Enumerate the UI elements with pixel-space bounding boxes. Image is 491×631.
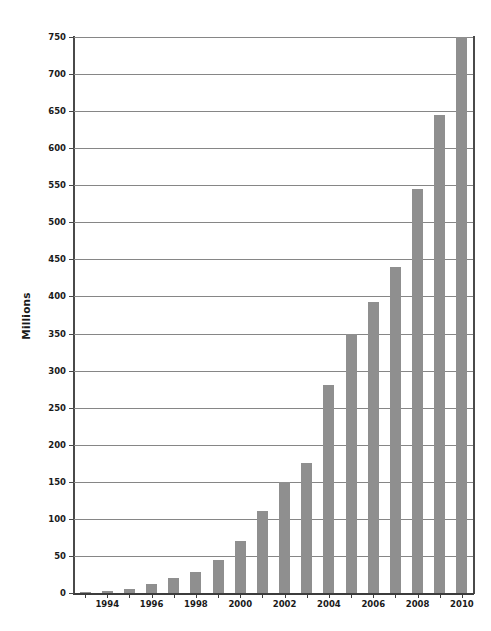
x-axis-tick-mark [307, 593, 308, 598]
gridline [74, 148, 473, 149]
x-axis-tick-mark [240, 593, 241, 598]
x-axis-tick-label: 2008 [406, 600, 430, 609]
bar [323, 385, 334, 593]
y-axis-tick-label: 450 [48, 255, 66, 264]
bar [213, 560, 224, 593]
y-axis-tick-mark [69, 408, 74, 409]
y-axis-tick-mark [69, 482, 74, 483]
x-axis-tick-mark [285, 593, 286, 598]
x-axis-tick-mark [418, 593, 419, 598]
y-axis-tick-label: 600 [48, 144, 66, 153]
bar [235, 541, 246, 593]
bar [368, 302, 379, 593]
y-axis-tick-mark [69, 148, 74, 149]
x-axis-tick-label: 2006 [361, 600, 385, 609]
x-axis-tick-mark [174, 593, 175, 598]
x-axis-tick-label: 2000 [228, 600, 252, 609]
y-axis-tick-label: 200 [48, 440, 66, 449]
y-axis-line [73, 36, 75, 593]
y-axis-tick-mark [69, 37, 74, 38]
y-axis-tick-label: 650 [48, 107, 66, 116]
x-axis-tick-mark [395, 593, 396, 598]
y-axis-tick-label: 400 [48, 292, 66, 301]
bar [346, 334, 357, 593]
bar [257, 511, 268, 593]
y-axis-tick-mark [69, 445, 74, 446]
x-axis-tick-label: 2002 [273, 600, 297, 609]
bar [190, 572, 201, 593]
y-axis-tick-mark [69, 556, 74, 557]
y-axis-tick-mark [69, 74, 74, 75]
x-axis-tick-mark [107, 593, 108, 598]
x-axis-tick-mark [262, 593, 263, 598]
y-axis-tick-mark [69, 371, 74, 372]
y-axis-tick-label: 0 [60, 589, 66, 598]
bar [412, 189, 423, 593]
x-axis-tick-label: 2004 [317, 600, 341, 609]
y-axis-tick-label: 350 [48, 329, 66, 338]
gridline [74, 111, 473, 112]
y-axis-tick-mark [69, 334, 74, 335]
y-axis-tick-label: 550 [48, 181, 66, 190]
y-axis-tick-label: 750 [48, 33, 66, 42]
right-axis-spine [473, 36, 475, 594]
y-axis-tick-label: 150 [48, 478, 66, 487]
gridline [74, 74, 473, 75]
bar [390, 267, 401, 593]
bar [168, 578, 179, 593]
x-axis-tick-mark [373, 593, 374, 598]
bar [146, 584, 157, 593]
bar [434, 115, 445, 593]
x-axis-tick-label: 1996 [140, 600, 164, 609]
x-axis-tick-label: 1994 [95, 600, 119, 609]
x-axis-tick-mark [440, 593, 441, 598]
y-axis-tick-mark [69, 222, 74, 223]
y-axis-tick-label: 50 [54, 552, 66, 561]
y-axis-tick-label: 100 [48, 515, 66, 524]
x-axis-line [73, 593, 474, 595]
x-axis-tick-label: 1998 [184, 600, 208, 609]
y-axis-tick-label: 250 [48, 403, 66, 412]
y-axis-tick-mark [69, 111, 74, 112]
y-axis-tick-label: 500 [48, 218, 66, 227]
gridline [74, 37, 473, 38]
plot-area: 0501001502002503003504004505005506006507… [74, 37, 473, 593]
x-axis-tick-mark [85, 593, 86, 598]
x-axis-tick-mark [218, 593, 219, 598]
gridline [74, 185, 473, 186]
y-axis-tick-mark [69, 593, 74, 594]
y-axis-title-label: Millions [20, 292, 32, 339]
bar [301, 463, 312, 593]
x-axis-tick-mark [196, 593, 197, 598]
x-axis-tick-mark [152, 593, 153, 598]
x-axis-tick-mark [351, 593, 352, 598]
y-axis-tick-mark [69, 259, 74, 260]
bar-chart-figure: Millions 0501001502002503003504004505005… [0, 0, 491, 631]
y-axis-tick-label: 700 [48, 70, 66, 79]
x-axis-tick-mark [129, 593, 130, 598]
x-axis-tick-mark [329, 593, 330, 598]
y-axis-title: Millions [14, 0, 38, 631]
y-axis-tick-label: 300 [48, 366, 66, 375]
bar [456, 37, 467, 593]
bar [279, 482, 290, 593]
x-axis-tick-label: 2010 [450, 600, 474, 609]
y-axis-tick-mark [69, 519, 74, 520]
x-axis-tick-mark [462, 593, 463, 598]
y-axis-tick-mark [69, 296, 74, 297]
y-axis-tick-mark [69, 185, 74, 186]
